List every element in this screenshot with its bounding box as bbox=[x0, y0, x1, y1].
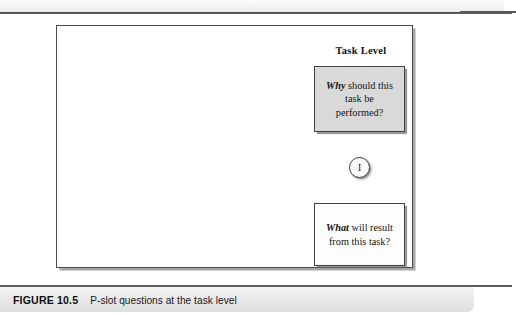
page-top-band bbox=[0, 0, 504, 12]
connector-node-icon: I bbox=[349, 157, 370, 178]
connector-node-label: I bbox=[358, 163, 361, 173]
top-horizontal-rule-tail bbox=[460, 11, 516, 13]
top-horizontal-rule bbox=[0, 12, 512, 14]
why-emphasis-word: Why bbox=[326, 80, 345, 91]
figure-frame: Task Level Why should this task be perfo… bbox=[56, 25, 413, 268]
what-question-box: What will result from this task? bbox=[314, 203, 405, 266]
figure-caption-label: FIGURE 10.5 bbox=[13, 294, 78, 306]
why-question-box: Why should this task be performed? bbox=[314, 66, 405, 132]
what-question-text: What will result from this task? bbox=[315, 221, 404, 248]
figure-caption-bar: FIGURE 10.5 P-slot questions at the task… bbox=[0, 287, 474, 312]
why-question-text: Why should this task be performed? bbox=[315, 79, 404, 119]
why-question-remainder: should this task be performed? bbox=[336, 80, 393, 118]
task-level-heading: Task Level bbox=[313, 45, 409, 56]
what-emphasis-word: What bbox=[326, 222, 349, 233]
figure-caption: FIGURE 10.5 P-slot questions at the task… bbox=[0, 294, 237, 306]
figure-page: Task Level Why should this task be perfo… bbox=[0, 0, 516, 314]
figure-caption-text: P-slot questions at the task level bbox=[90, 295, 236, 306]
